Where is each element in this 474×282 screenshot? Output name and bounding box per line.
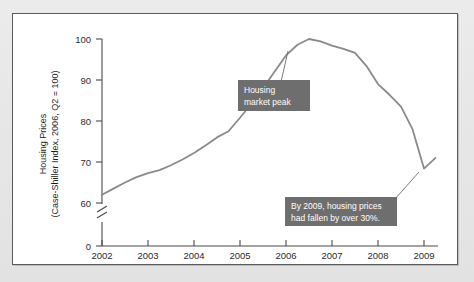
y-tick-label-100: 100 [75, 34, 91, 45]
callout-peak-line1: Housing [244, 85, 275, 95]
figure-root: Housing Prices (Case-Shiller Index, 2006… [0, 0, 474, 282]
annotation-decline-note: By 2009, housing prices had fallen by ov… [285, 172, 419, 226]
x-tick-label-2004: 2004 [183, 250, 204, 261]
x-tick-label-2005: 2005 [229, 250, 250, 261]
series-line-case-shiller [102, 39, 436, 195]
x-tick-label-2008: 2008 [367, 250, 388, 261]
y-tick-label-80: 80 [80, 116, 91, 127]
x-axis: 2002 2003 2004 2005 2006 2007 2008 2009 [91, 240, 438, 261]
leader-line-decline [395, 172, 419, 199]
callout-decline-line2: had fallen by over 30%. [291, 213, 380, 223]
y-axis-title-line2: (Case-Shiller Index, 2006, Q2 = 100) [50, 71, 60, 218]
housing-prices-line-chart: Housing Prices (Case-Shiller Index, 2006… [13, 14, 457, 264]
callout-decline-line1: By 2009, housing prices [291, 201, 382, 211]
y-tick-label-90: 90 [80, 75, 91, 86]
x-tick-label-2009: 2009 [413, 250, 434, 261]
x-tick-label-2002: 2002 [91, 250, 112, 261]
chart-panel: Housing Prices (Case-Shiller Index, 2006… [12, 13, 458, 265]
y-axis: 100 90 80 70 60 0 [75, 34, 107, 252]
y-axis-title-line1: Housing Prices [38, 113, 48, 174]
annotation-housing-market-peak: Housing market peak [238, 51, 310, 111]
x-tick-label-2006: 2006 [275, 250, 296, 261]
callout-peak-line2: market peak [244, 97, 292, 107]
y-axis-break-icon [97, 206, 107, 218]
y-tick-label-70: 70 [80, 157, 91, 168]
leader-line-peak [281, 51, 288, 82]
y-axis-title: Housing Prices (Case-Shiller Index, 2006… [38, 71, 60, 218]
y-tick-label-0: 0 [86, 241, 91, 252]
y-tick-label-60: 60 [80, 198, 91, 209]
x-tick-label-2003: 2003 [137, 250, 158, 261]
x-tick-label-2007: 2007 [321, 250, 342, 261]
